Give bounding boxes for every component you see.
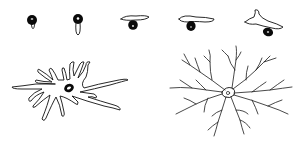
stage-1-cell — [27, 15, 37, 28]
stage-3-cell — [121, 16, 149, 30]
cell-morphology-figure — [0, 0, 297, 151]
stage-5-cell — [245, 10, 283, 38]
stage-2-cell — [73, 14, 83, 35]
cell-fine-processes — [170, 46, 292, 136]
stage-4-cell — [179, 16, 214, 31]
cell-thick-processes — [12, 62, 128, 121]
